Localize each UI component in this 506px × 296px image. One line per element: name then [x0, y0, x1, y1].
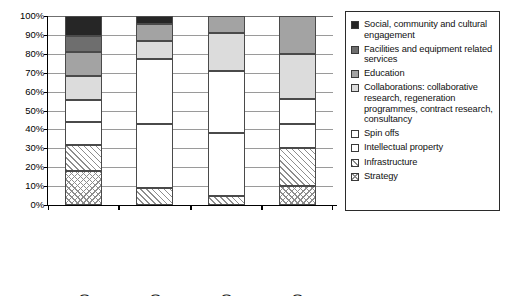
- stacked-bar-chart: 0%10%20%30%40%50%60%70%80%90%100% HE-BCI…: [0, 0, 506, 296]
- y-tick-label: 80%: [25, 49, 44, 59]
- bar-segment-infrastructure[interactable]: [280, 148, 315, 186]
- legend-swatch-strategy-icon: [351, 173, 359, 181]
- legend-item-collab[interactable]: Collaborations: collaborative research, …: [351, 82, 495, 124]
- legend-label: Facilities and equipment related service…: [364, 44, 495, 65]
- legend-item-social[interactable]: Social, community and cultural engagemen…: [351, 19, 495, 40]
- bar-segment-spinoffs[interactable]: [280, 99, 315, 124]
- legend-label: Intellectual property: [364, 142, 443, 153]
- legend-label: Education: [364, 68, 404, 79]
- legend-swatch-education-icon: [351, 70, 359, 78]
- legend-label: Spin offs: [364, 128, 399, 139]
- y-tick-label: 30%: [25, 144, 44, 154]
- bar-segment-collab[interactable]: [280, 54, 315, 99]
- bar-segment-collab[interactable]: [66, 76, 101, 100]
- legend-item-ip[interactable]: Intellectual property: [351, 142, 495, 153]
- bar-segment-ip[interactable]: [137, 124, 172, 188]
- bar-segment-facilities[interactable]: [66, 36, 101, 52]
- legend-item-facilities[interactable]: Facilities and equipment related service…: [351, 44, 495, 65]
- bar-segment-collab[interactable]: [137, 41, 172, 60]
- bar-segment-education[interactable]: [280, 16, 315, 54]
- bar-segment-strategy[interactable]: [280, 186, 315, 205]
- bar-segment-ip[interactable]: [66, 122, 101, 145]
- plot-region: 0%10%20%30%40%50%60%70%80%90%100% HE-BCI…: [0, 0, 345, 296]
- legend-item-spinoffs[interactable]: Spin offs: [351, 128, 495, 139]
- y-tick-label: 0%: [30, 200, 44, 210]
- bar-segment-education[interactable]: [137, 24, 172, 41]
- legend-label: Social, community and cultural engagemen…: [364, 19, 495, 40]
- bar-segment-strategy[interactable]: [66, 171, 101, 205]
- legend-item-infrastructure[interactable]: Infrastructure: [351, 157, 495, 168]
- bar-segment-infrastructure[interactable]: [66, 145, 101, 171]
- legend-label: Collaborations: collaborative research, …: [364, 82, 495, 124]
- y-axis-tick-labels: 0%10%20%30%40%50%60%70%80%90%100%: [2, 10, 44, 206]
- y-tick-label: 50%: [25, 106, 44, 116]
- y-tick-label: 20%: [25, 162, 44, 172]
- y-tick-label: 40%: [25, 125, 44, 135]
- legend-swatch-ip-icon: [351, 144, 359, 152]
- bar-segment-ip[interactable]: [280, 124, 315, 149]
- bar-segment-social[interactable]: [137, 16, 172, 24]
- bar-he-bci-uk[interactable]: [65, 16, 102, 205]
- bar-segment-infrastructure[interactable]: [209, 196, 244, 205]
- bar-segment-infrastructure[interactable]: [137, 188, 172, 205]
- legend-label: Strategy: [364, 171, 398, 182]
- bars-layer: [48, 16, 333, 205]
- legend-swatch-facilities-icon: [351, 46, 359, 54]
- y-tick-label: 90%: [25, 30, 44, 40]
- bar-nsrc-australia[interactable]: [208, 16, 245, 205]
- x-axis-category-labels: HE-BCI (UK)AUTM (US)NSRC (Australia)ProT…: [47, 210, 332, 296]
- bar-segment-education[interactable]: [66, 52, 101, 77]
- legend-swatch-infrastructure-icon: [351, 159, 359, 167]
- bar-segment-ip[interactable]: [209, 133, 244, 195]
- bar-segment-spinoffs[interactable]: [66, 100, 101, 122]
- bar-autm-us[interactable]: [136, 16, 173, 205]
- y-tick-label: 100%: [20, 11, 44, 21]
- legend-item-education[interactable]: Education: [351, 68, 495, 79]
- legend-swatch-social-icon: [351, 21, 359, 29]
- legend-swatch-collab-icon: [351, 84, 359, 92]
- chart-legend: Social, community and cultural engagemen…: [345, 11, 500, 211]
- y-tick-label: 70%: [25, 68, 44, 78]
- bar-segment-spinoffs[interactable]: [137, 59, 172, 123]
- bar-segment-education[interactable]: [209, 16, 244, 33]
- legend-item-strategy[interactable]: Strategy: [351, 171, 495, 182]
- y-tick-label: 10%: [25, 181, 44, 191]
- bar-proton-europe[interactable]: [279, 16, 316, 205]
- x-axis-line: [44, 205, 337, 206]
- legend-label: Infrastructure: [364, 157, 417, 168]
- bar-segment-social[interactable]: [66, 16, 101, 36]
- bar-segment-spinoffs[interactable]: [209, 71, 244, 133]
- bar-segment-collab[interactable]: [209, 33, 244, 71]
- plot-area: [47, 16, 333, 205]
- legend-swatch-spinoffs-icon: [351, 130, 359, 138]
- y-tick-label: 60%: [25, 87, 44, 97]
